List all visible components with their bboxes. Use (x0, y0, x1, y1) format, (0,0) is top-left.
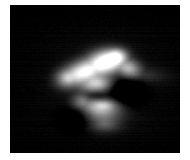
intensity-heatmap-canvas (10, 5, 180, 153)
figure-root: Grayscale intensity image Bright irregul… (0, 0, 190, 160)
image-field (10, 5, 180, 153)
